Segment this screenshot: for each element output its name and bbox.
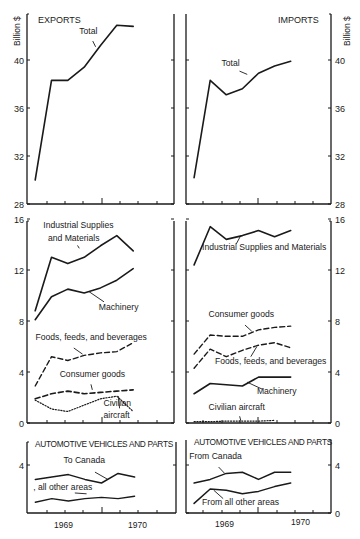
y-tick-label: 0 xyxy=(335,419,340,429)
y-unit-right: Billion $ xyxy=(342,16,352,46)
y-tick-label: 40 xyxy=(335,56,345,66)
series-annotation: From Canada xyxy=(189,451,242,461)
series-annotation: Total xyxy=(79,26,97,36)
series-annotation: Civilian aircraft xyxy=(209,402,266,412)
series-machinery xyxy=(35,269,133,320)
imports-automotive-panel: 04From CanadaFrom all other areas xyxy=(186,440,340,519)
series-all-other-areas xyxy=(35,496,134,502)
series-annotation: Industrial Supplies and Materials xyxy=(202,242,326,252)
series-total xyxy=(35,25,133,180)
y-tick-label: 0 xyxy=(335,509,340,519)
y-tick-label: 4 xyxy=(19,368,24,378)
x-label-1970-right: 1970 xyxy=(291,517,310,527)
series-annotation: Industrial Supplies xyxy=(43,220,113,230)
annotation-arrow xyxy=(91,384,92,390)
series-annotation: Consumer goods xyxy=(209,309,274,319)
auto-title-left: AUTOMOTIVE VEHICLES AND PARTS xyxy=(35,439,174,449)
y-tick-label: 40 xyxy=(14,56,24,66)
y-tick-label: 4 xyxy=(335,368,340,378)
exports-total-panel: 28323640Total xyxy=(14,14,174,210)
series-annotation: Machinery xyxy=(99,302,139,312)
y-tick-label: 28 xyxy=(14,200,24,210)
exports-automotive-panel: 4To Canada‚ all other areas xyxy=(19,442,176,513)
series-annotation: Machinery xyxy=(257,386,297,396)
x-label-1969-right: 1969 xyxy=(215,519,234,529)
x-label-1970-left: 1970 xyxy=(128,520,147,530)
auto-title-right: AUTOMOTIVE VEHICLES AND PARTS xyxy=(194,437,333,447)
y-tick-label: 36 xyxy=(14,104,24,114)
y-tick-label: 28 xyxy=(335,200,345,210)
annotation-arrow xyxy=(93,41,96,47)
annotation-arrow xyxy=(245,325,252,331)
series-annotation: Civilian xyxy=(103,398,131,408)
y-unit-left: Billion $ xyxy=(12,16,22,46)
y-tick-label: 4 xyxy=(19,461,24,471)
y-tick-label: 12 xyxy=(14,266,24,276)
y-tick-label: 8 xyxy=(335,317,340,327)
annotation-arrow xyxy=(89,292,104,302)
annotation-arrow xyxy=(78,245,80,248)
y-tick-label: 4 xyxy=(335,461,340,471)
imports-total-panel: 28323640Total xyxy=(186,14,345,210)
series-annotation: and Materials xyxy=(48,233,100,243)
annotation-arrow xyxy=(240,71,248,74)
trade-chart: 28323640Total28323640Total0481216Industr… xyxy=(0,0,360,539)
y-tick-label: 32 xyxy=(335,152,345,162)
annotation-arrow xyxy=(219,467,225,473)
series-annotation: Foods, feeds, and beverages xyxy=(35,332,146,342)
series-annotation: Total xyxy=(221,58,239,68)
series-annotation: To Canada xyxy=(63,455,105,465)
y-tick-label: 12 xyxy=(335,266,345,276)
series-from-canada xyxy=(194,472,291,483)
annotation-arrow xyxy=(75,493,87,494)
series-annotation: Consumer goods xyxy=(60,369,125,379)
y-tick-label: 32 xyxy=(14,152,24,162)
y-tick-label: 8 xyxy=(19,317,24,327)
y-tick-label: 16 xyxy=(14,215,24,225)
imports-title: IMPORTS xyxy=(278,15,319,25)
annotation-arrow xyxy=(251,347,257,357)
y-tick-label: 36 xyxy=(335,104,345,114)
x-label-1969-left: 1969 xyxy=(54,520,73,530)
exports-categories-panel: 0481216Industrial Suppliesand MaterialsM… xyxy=(14,215,174,429)
series-annotation: aircraft xyxy=(103,410,130,420)
exports-title: EXPORTS xyxy=(38,15,81,25)
series-civilian-aircraft xyxy=(194,420,275,421)
imports-categories-panel: 0481216Industrial Supplies and Materials… xyxy=(186,215,345,429)
series-annotation: From all other areas xyxy=(202,497,279,507)
series-total xyxy=(194,61,291,177)
series-annotation: Foods, feeds, and beverages xyxy=(215,356,326,366)
annotation-arrow xyxy=(74,348,83,354)
series-annotation: ‚ all other areas xyxy=(34,482,93,492)
annotation-arrow xyxy=(95,472,108,479)
series-foods-feeds-and-beverages xyxy=(35,343,133,386)
annotation-arrow xyxy=(240,416,241,420)
y-tick-label: 0 xyxy=(19,419,24,429)
y-tick-label: 16 xyxy=(335,215,345,225)
